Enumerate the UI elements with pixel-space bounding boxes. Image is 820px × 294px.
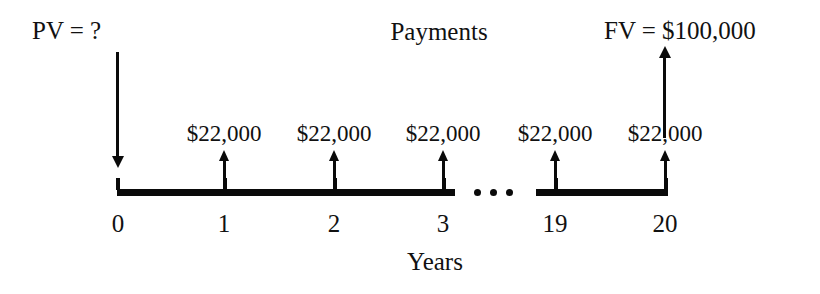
payment-amount-year-19: $22,000	[518, 122, 593, 145]
fv-arrow-head-icon	[659, 46, 671, 58]
payment-amount-year-1: $22,000	[187, 122, 262, 145]
year-label-3: 3	[437, 211, 450, 236]
year-label-1: 1	[218, 211, 231, 236]
timeline-bar-right-segment	[536, 189, 668, 196]
payments-header-label: Payments	[390, 19, 487, 44]
payment-arrow-head-icon-year-1	[219, 150, 229, 161]
timeline-tick-year-3	[442, 178, 446, 190]
payment-arrow-head-icon-year-19	[550, 150, 560, 161]
timeline-gap-dot-2	[490, 189, 497, 196]
year-label-0: 0	[112, 211, 125, 236]
payment-amount-year-3: $22,000	[406, 122, 481, 145]
timeline-tick-year-1	[223, 178, 227, 190]
year-label-20: 20	[653, 211, 678, 236]
timeline-tick-year-0	[116, 178, 120, 190]
payment-amount-year-20: $22,000	[628, 122, 703, 145]
pv-arrow-head-icon	[112, 156, 124, 168]
present-value-label: PV = ?	[32, 18, 101, 43]
timeline-tick-year-2	[333, 178, 337, 190]
timeline-bar-left-segment	[117, 189, 455, 196]
timeline-gap-dot-3	[506, 189, 513, 196]
cash-flow-timeline-diagram: PV = ? Payments FV = $100,000 $22,000 $2…	[0, 0, 820, 294]
year-label-19: 19	[543, 211, 568, 236]
year-label-2: 2	[328, 211, 341, 236]
axis-label-years: Years	[407, 249, 463, 274]
timeline-gap-dot-1	[474, 189, 481, 196]
pv-arrow-shaft	[116, 52, 119, 160]
timeline-tick-year-19	[554, 178, 558, 190]
payment-arrow-head-icon-year-2	[329, 150, 339, 161]
payment-arrow-head-icon-year-20	[660, 150, 670, 161]
future-value-label: FV = $100,000	[604, 18, 756, 43]
timeline-tick-year-20	[664, 178, 668, 190]
payment-arrow-head-icon-year-3	[438, 150, 448, 161]
payment-amount-year-2: $22,000	[297, 122, 372, 145]
